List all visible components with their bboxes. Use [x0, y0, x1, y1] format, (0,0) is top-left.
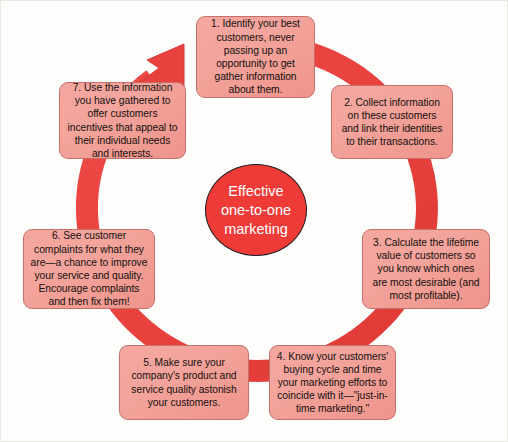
- step-box-1[interactable]: 1. Identify your best customers, never p…: [196, 16, 315, 98]
- step-box-4[interactable]: 4. Know your customers' buying cycle and…: [269, 345, 396, 420]
- step-label-2: 2. Collect information on these customer…: [338, 96, 446, 149]
- center-hub-line-2: one-to-one: [221, 201, 291, 220]
- step-box-6[interactable]: 6. See customer complaints for what they…: [23, 229, 155, 309]
- center-hub-line-1: Effective: [221, 182, 291, 201]
- diagram-canvas: 1. Identify your best customers, never p…: [0, 0, 508, 442]
- step-label-7: 7. Use the information you have gathered…: [66, 81, 179, 160]
- step-box-3[interactable]: 3. Calculate the lifetime value of custo…: [362, 229, 490, 309]
- center-hub-text: Effective one-to-one marketing: [221, 182, 291, 239]
- step-label-6: 6. See customer complaints for what they…: [30, 229, 148, 308]
- step-label-3: 3. Calculate the lifetime value of custo…: [369, 236, 483, 302]
- step-box-7[interactable]: 7. Use the information you have gathered…: [59, 82, 186, 159]
- center-hub-line-3: marketing: [221, 220, 291, 239]
- step-label-5: 5. Make sure your company's product and …: [126, 356, 242, 409]
- step-box-5[interactable]: 5. Make sure your company's product and …: [119, 345, 249, 420]
- step-label-4: 4. Know your customers' buying cycle and…: [276, 350, 389, 416]
- step-label-1: 1. Identify your best customers, never p…: [203, 17, 308, 96]
- center-hub: Effective one-to-one marketing: [205, 164, 307, 256]
- step-box-2[interactable]: 2. Collect information on these customer…: [331, 85, 453, 159]
